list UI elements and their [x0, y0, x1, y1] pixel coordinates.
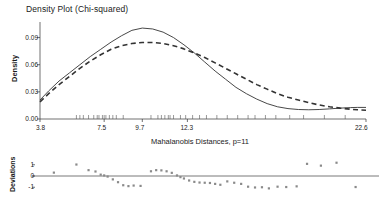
- deviation-point: [247, 186, 249, 188]
- deviation-point: [165, 170, 167, 172]
- deviation-point: [320, 165, 322, 167]
- deviation-point: [285, 186, 287, 188]
- deviation-point: [112, 178, 114, 180]
- density-y-tick-label: 0.06: [18, 61, 38, 68]
- deviation-point: [268, 187, 270, 189]
- deviation-point: [150, 170, 152, 172]
- deviation-point: [355, 186, 357, 188]
- deviation-point: [94, 170, 96, 172]
- density-x-tick-label: 7.5: [97, 124, 106, 131]
- deviation-point: [139, 185, 141, 187]
- deviation-point: [296, 185, 298, 187]
- deviation-point: [179, 176, 181, 178]
- deviation-point: [240, 183, 242, 185]
- density-x-tick-label: 12.3: [180, 124, 193, 131]
- deviation-point: [214, 183, 216, 185]
- deviation-point: [87, 169, 89, 171]
- deviation-point: [155, 169, 157, 171]
- deviation-point: [261, 186, 263, 188]
- deviation-point: [198, 181, 200, 183]
- deviation-point: [226, 180, 228, 182]
- deviation-point: [306, 163, 308, 165]
- deviation-point: [219, 184, 221, 186]
- deviation-point: [188, 179, 190, 181]
- deviation-point: [204, 182, 206, 184]
- density-y-tick-label: 0.00: [18, 115, 38, 122]
- deviations-y-tick-label: -1: [20, 183, 34, 190]
- density-x-tick-label: 9.7: [135, 124, 144, 131]
- deviation-point: [122, 184, 124, 186]
- deviation-point: [53, 172, 55, 174]
- deviation-point: [107, 175, 109, 177]
- deviation-point: [276, 186, 278, 188]
- deviation-point: [160, 169, 162, 171]
- deviation-point: [127, 185, 129, 187]
- deviation-point: [209, 182, 211, 184]
- deviation-point: [233, 182, 235, 184]
- density-curve-theoretical-chi-squared-density: [40, 43, 366, 111]
- deviation-point: [183, 177, 185, 179]
- deviation-point: [335, 162, 337, 164]
- deviation-point: [176, 174, 178, 176]
- deviation-point: [171, 172, 173, 174]
- density-plot-figure: Density Plot (Chi-squared) Density Mahal…: [0, 0, 381, 201]
- density-curve-empirical-density: [40, 28, 366, 110]
- deviation-point: [193, 181, 195, 183]
- deviations-y-tick-label: 1: [20, 161, 34, 168]
- density-x-tick-label: 22.6: [355, 124, 368, 131]
- deviation-point: [254, 186, 256, 188]
- deviation-point: [103, 174, 105, 176]
- deviations-y-tick-label: 0: [20, 172, 34, 179]
- deviation-point: [117, 181, 119, 183]
- deviation-point: [100, 174, 102, 176]
- density-x-tick-label: 3.8: [36, 124, 45, 131]
- deviation-point: [75, 163, 77, 165]
- deviation-point: [133, 184, 135, 186]
- plot-canvas: [0, 0, 381, 201]
- density-y-tick-label: 0.09: [18, 34, 38, 41]
- density-y-tick-label: 0.03: [18, 88, 38, 95]
